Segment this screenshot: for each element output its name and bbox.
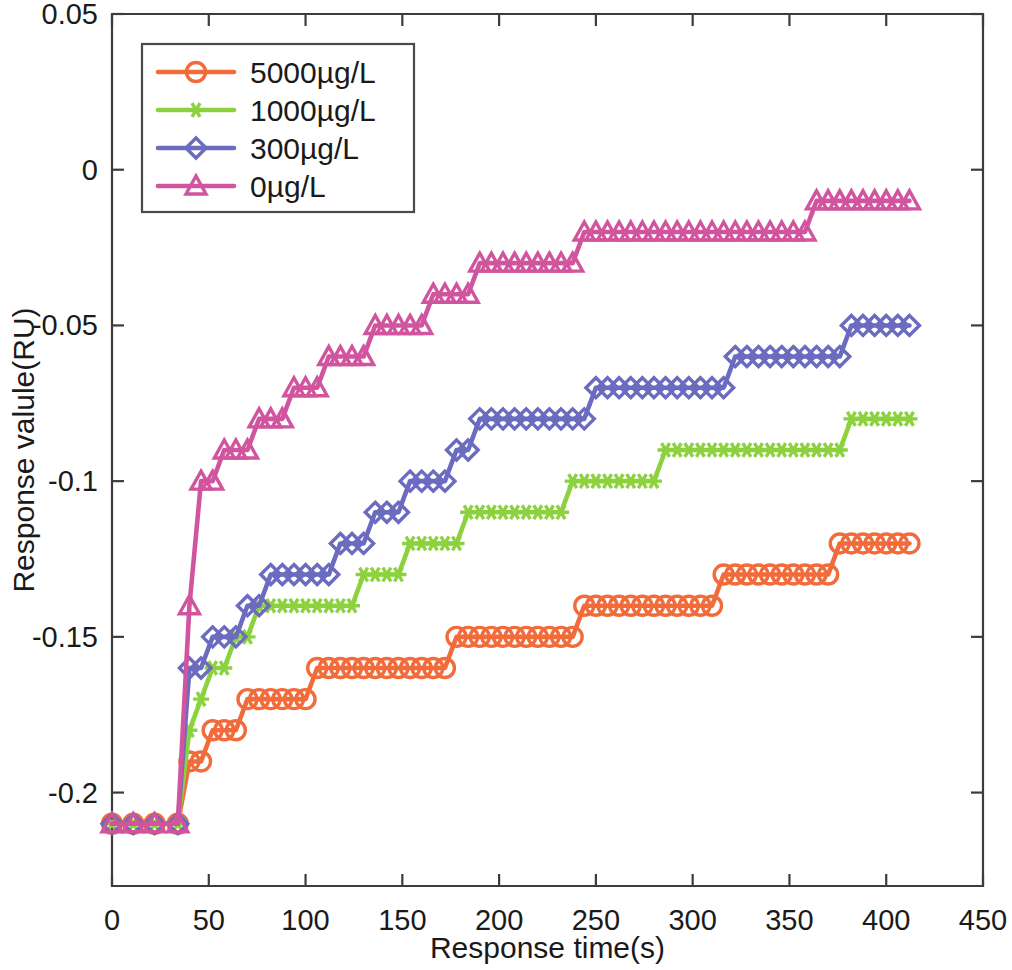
- y-tick-label: -0.05: [32, 309, 98, 341]
- x-tick-label: 150: [378, 904, 426, 936]
- series-1000-g-l: [104, 412, 917, 831]
- x-tick-label: 400: [862, 904, 910, 936]
- legend-label: 300µg/L: [250, 132, 359, 165]
- x-tick-label: 50: [193, 904, 225, 936]
- legend-label: 0µg/L: [250, 170, 326, 203]
- chart-legend: 5000µg/L1000µg/L300µg/L0µg/L: [142, 44, 414, 212]
- y-tick-label: -0.1: [48, 465, 98, 497]
- x-tick-label: 350: [765, 904, 813, 936]
- y-tick-label: -0.2: [48, 777, 98, 809]
- x-tick-label: 300: [668, 904, 716, 936]
- y-tick-label: -0.15: [32, 621, 98, 653]
- x-tick-label: 100: [281, 904, 329, 936]
- y-tick-label: 0: [82, 154, 98, 186]
- y-tick-label: 0.05: [42, 0, 98, 30]
- x-tick-label: 450: [959, 904, 1007, 936]
- x-tick-label: 0: [104, 904, 120, 936]
- data-series-group: [102, 191, 919, 834]
- data-point-marker: [901, 412, 917, 426]
- y-axis-title: Response valule(RU): [7, 307, 40, 592]
- legend-label: 1000µg/L: [250, 94, 376, 127]
- response-curve-chart: 5000µg/L1000µg/L300µg/L0µg/L 05010015020…: [0, 0, 1012, 970]
- series-5000-g-l: [103, 534, 919, 833]
- figure-container: 5000µg/L1000µg/L300µg/L0µg/L 05010015020…: [0, 0, 1012, 970]
- x-axis-title: Response time(s): [430, 931, 665, 964]
- series-line: [112, 419, 909, 824]
- series-line: [112, 543, 909, 823]
- legend-label: 5000µg/L: [250, 56, 376, 89]
